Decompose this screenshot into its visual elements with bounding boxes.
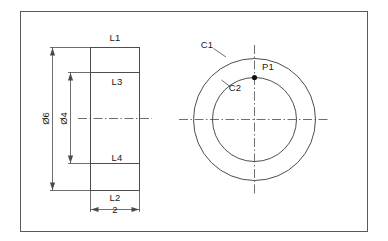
arrowhead-d4-top: [68, 73, 73, 81]
front-ring-view: C1 C2 P1: [179, 39, 330, 195]
arrowhead-d4-bottom: [68, 156, 73, 164]
cross-section-view: Ø6 Ø4 2 L1 L3 L4 L2: [40, 32, 152, 215]
dimension-label-outer-diameter: Ø6: [40, 112, 51, 125]
dimension-label-inner-diameter: Ø4: [58, 112, 69, 125]
dimension-label-width: 2: [112, 204, 117, 215]
arrowhead-width-right: [132, 207, 140, 212]
label-L4: L4: [112, 152, 123, 163]
leader-line-C1: [214, 49, 227, 58]
cad-drawing-svg: Ø6 Ø4 2 L1 L3 L4 L2: [0, 0, 388, 241]
label-L3: L3: [112, 76, 123, 87]
label-C2: C2: [229, 82, 242, 93]
label-L2: L2: [110, 192, 121, 203]
label-L1: L1: [110, 32, 121, 43]
technical-drawing-canvas: Ø6 Ø4 2 L1 L3 L4 L2: [0, 0, 388, 241]
label-P1: P1: [262, 61, 274, 72]
point-P1-marker: [252, 75, 257, 80]
arrowhead-width-left: [91, 207, 99, 212]
arrowhead-d6-top: [50, 48, 55, 56]
label-C1: C1: [201, 39, 214, 50]
arrowhead-d6-bottom: [50, 183, 55, 191]
section-rectangle-outline: [91, 48, 140, 191]
